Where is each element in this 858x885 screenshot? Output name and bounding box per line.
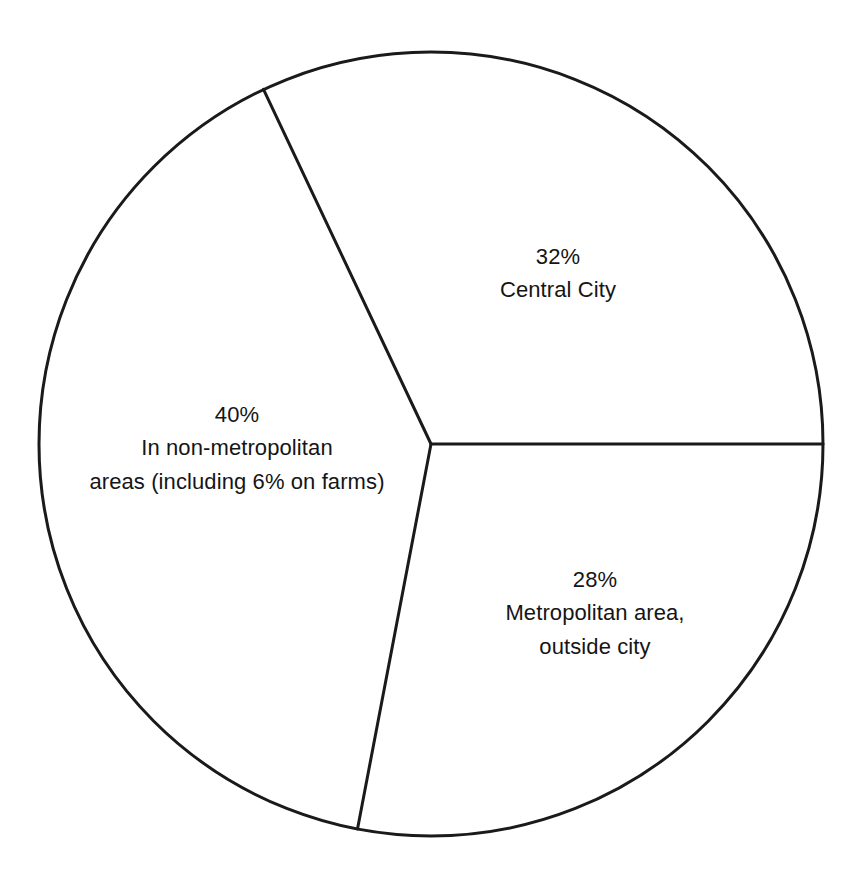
pie-slice-label-central-city: 32% Central City [500, 240, 616, 307]
pie-slice-name-non-metropolitan-line1: In non-metropolitan [89, 431, 384, 464]
pie-slice-label-metropolitan-outside-city: 28% Metropolitan area, outside city [505, 563, 684, 663]
pie-chart-figure: 32% Central City 40% In non-metropolitan… [0, 0, 858, 885]
pie-slice-name-metropolitan-outside-city-line1: Metropolitan area, [505, 596, 684, 629]
pie-slice-percent-central-city: 32% [500, 240, 616, 273]
pie-slice-percent-metropolitan-outside-city: 28% [505, 563, 684, 596]
pie-slice-label-non-metropolitan: 40% In non-metropolitan areas (including… [89, 398, 384, 498]
pie-slice-name-non-metropolitan-line2: areas (including 6% on farms) [89, 465, 384, 498]
pie-slice-name-metropolitan-outside-city-line2: outside city [505, 630, 684, 663]
pie-slice-percent-non-metropolitan: 40% [89, 398, 384, 431]
pie-slice-name-central-city: Central City [500, 273, 616, 306]
